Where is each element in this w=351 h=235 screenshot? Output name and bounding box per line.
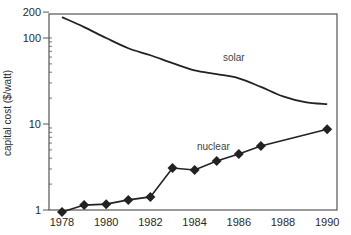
solar-curve	[62, 17, 327, 104]
y-tick-label: 1	[35, 204, 41, 216]
y-tick-label: 10	[29, 118, 41, 130]
solar-series-label: solar	[223, 52, 245, 63]
x-tick-label: 1984	[182, 216, 206, 228]
diamond-marker-icon	[101, 199, 111, 209]
y-tick-label: 200	[23, 6, 41, 18]
x-tick-label: 1982	[138, 216, 162, 228]
diamond-marker-icon	[212, 156, 222, 166]
y-tick-label: 100	[23, 32, 41, 44]
nuclear-series-label: nuclear	[197, 141, 230, 152]
x-tick-label: 1980	[94, 216, 118, 228]
plot-border	[49, 14, 337, 210]
diamond-marker-icon	[190, 165, 200, 175]
plot-frame	[49, 14, 337, 210]
chart-container: 110100200 1978198019821984198619881990 c…	[0, 0, 351, 235]
series-solar-line	[62, 17, 327, 104]
x-tick-label: 1986	[227, 216, 251, 228]
x-axis: 1978198019821984198619881990	[50, 216, 340, 228]
x-tick-label: 1988	[271, 216, 295, 228]
x-tick-label: 1990	[315, 216, 339, 228]
diamond-marker-icon	[123, 195, 133, 205]
x-tick-label: 1978	[50, 216, 74, 228]
diamond-marker-icon	[79, 200, 89, 210]
diamond-marker-icon	[234, 149, 244, 159]
diamond-marker-icon	[256, 141, 266, 151]
diamond-marker-icon	[322, 124, 332, 134]
chart-svg: 110100200 1978198019821984198619881990 c…	[0, 0, 351, 235]
y-axis: 110100200	[23, 6, 52, 216]
y-axis-title: capital cost ($/watt)	[2, 70, 13, 156]
series-nuclear-line	[57, 124, 332, 217]
